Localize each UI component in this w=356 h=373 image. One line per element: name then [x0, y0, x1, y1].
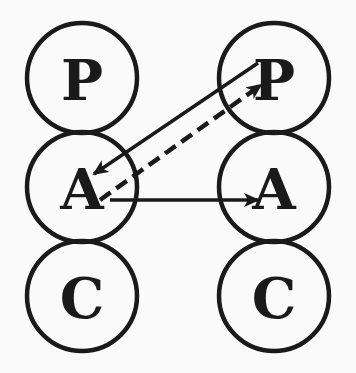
left-parent-node: P — [27, 23, 137, 133]
right-adult-node: A — [219, 132, 329, 242]
right-child-label: C — [252, 265, 297, 331]
arrow-left-adult-to-right-parent-dashed — [100, 85, 261, 200]
right-child-node: C — [219, 241, 329, 351]
left-child-node: C — [27, 241, 137, 351]
ego-state-diagram: P A C P A C — [0, 0, 356, 373]
right-parent-label: P — [253, 47, 295, 113]
left-child-label: C — [60, 265, 105, 331]
right-person-ego-states: P A C — [219, 23, 329, 351]
right-adult-label: A — [251, 156, 297, 222]
transaction-arrows — [94, 63, 261, 200]
left-parent-label: P — [61, 47, 103, 113]
left-adult-label: A — [59, 156, 105, 222]
